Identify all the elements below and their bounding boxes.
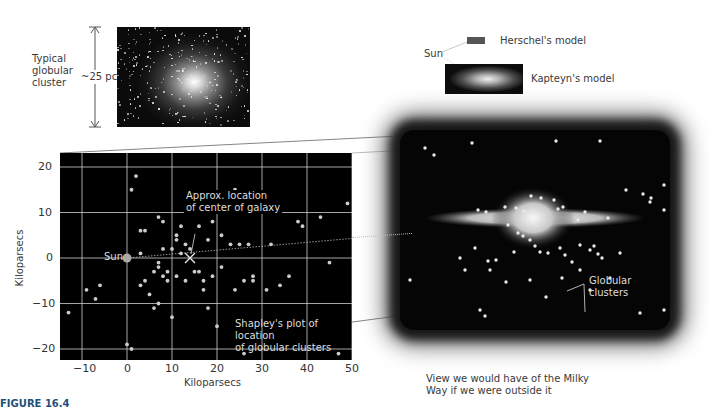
- y-tick-label: 20: [38, 160, 52, 173]
- globular-cluster-point: [233, 288, 237, 292]
- globular-cluster-point: [278, 283, 282, 287]
- globular-cluster-point: [346, 202, 350, 206]
- globular-cluster-point: [251, 274, 255, 278]
- globular-cluster-point: [157, 265, 161, 269]
- globular-cluster-point: [175, 274, 179, 278]
- globular-cluster-point: [161, 247, 165, 251]
- center-label-line: of center of galaxy: [186, 202, 280, 214]
- globular-cluster-point: [67, 311, 71, 315]
- x-tick-label: −10: [73, 362, 96, 375]
- globular-cluster-point: [197, 224, 201, 228]
- globular-cluster-point: [211, 274, 215, 278]
- x-tick-label: 20: [210, 362, 224, 375]
- globular-cluster-point: [206, 238, 210, 242]
- globular-cluster-point: [197, 270, 201, 274]
- globular-cluster-point: [251, 279, 255, 283]
- plot-caption-line: Shapley's plot of location: [235, 318, 352, 342]
- globular-cluster-point: [157, 302, 161, 306]
- globular-cluster-point: [184, 242, 188, 246]
- x-axis-label: Kiloparsecs: [184, 377, 241, 389]
- globular-cluster-point: [188, 247, 192, 251]
- plot-caption: Shapley's plot of location of globular c…: [235, 318, 352, 354]
- globular-cluster-point: [247, 242, 251, 246]
- figure-label: FIGURE 16.4: [0, 398, 70, 409]
- globular-cluster-point: [184, 279, 188, 283]
- globular-cluster-point: [287, 274, 291, 278]
- globular-cluster-point: [139, 252, 143, 256]
- globular-cluster-point: [301, 224, 305, 228]
- globular-cluster-point: [139, 229, 143, 233]
- globular-cluster-point: [125, 343, 129, 347]
- plot-caption-line: of globular clusters: [235, 342, 352, 354]
- globular-cluster-point: [202, 288, 206, 292]
- x-tick-label: 30: [255, 362, 269, 375]
- globular-cluster-point: [296, 220, 300, 224]
- globular-cluster-point: [98, 283, 102, 287]
- globular-cluster-point: [229, 242, 233, 246]
- globular-cluster-point: [143, 229, 147, 233]
- globular-cluster-point: [242, 279, 246, 283]
- globular-cluster-point: [215, 324, 219, 328]
- globular-cluster-point: [152, 270, 156, 274]
- globular-pointer-lines: [400, 130, 670, 330]
- globular-cluster-point: [220, 265, 224, 269]
- view-caption-line: Way if we were outside it: [426, 385, 589, 397]
- galaxy-center-label: Approx. location of center of galaxy: [184, 190, 282, 214]
- y-tick-label: 0: [46, 251, 53, 264]
- globular-cluster-point: [161, 274, 165, 278]
- x-tick-label: 10: [165, 362, 179, 375]
- globular-cluster-point: [319, 215, 323, 219]
- globular-cluster-point: [238, 242, 242, 246]
- milky-way-side-view: Globular clusters: [400, 130, 670, 330]
- shapley-plot: Sun Approx. location of center of galaxy…: [60, 153, 352, 360]
- globular-cluster-point: [211, 220, 215, 224]
- globular-cluster-point: [94, 297, 98, 301]
- globular-cluster-point: [143, 279, 147, 283]
- globular-cluster-point: [85, 288, 89, 292]
- globular-cluster-point: [166, 279, 170, 283]
- globular-cluster-point: [170, 247, 174, 251]
- globular-cluster-point: [179, 224, 183, 228]
- globular-cluster-point: [130, 347, 134, 351]
- x-tick-label: 0: [124, 362, 131, 375]
- center-label-line: Approx. location: [186, 190, 280, 202]
- globular-cluster-point: [175, 238, 179, 242]
- globular-cluster-point: [166, 270, 170, 274]
- globular-cluster-point: [157, 261, 161, 265]
- globular-cluster-point: [134, 174, 138, 178]
- globular-cluster-point: [152, 306, 156, 310]
- globular-cluster-point: [175, 233, 179, 237]
- x-tick-label: 50: [345, 362, 359, 375]
- globular-cluster-point: [170, 315, 174, 319]
- globular-cluster-point: [328, 261, 332, 265]
- plot-sun-label: Sun: [104, 251, 123, 263]
- sun-point: [123, 254, 132, 263]
- view-caption: View we would have of the Milky Way if w…: [426, 373, 589, 397]
- globular-cluster-point: [148, 293, 152, 297]
- globular-cluster-point: [193, 270, 197, 274]
- y-axis-label: Kiloparsecs: [14, 230, 26, 287]
- view-caption-line: View we would have of the Milky: [426, 373, 589, 385]
- globular-cluster-point: [130, 188, 134, 192]
- globular-cluster-point: [265, 288, 269, 292]
- globular-cluster-point: [206, 306, 210, 310]
- globular-cluster-point: [179, 252, 183, 256]
- y-tick-label: −20: [32, 342, 55, 355]
- x-tick-label: 40: [300, 362, 314, 375]
- y-tick-label: 10: [38, 206, 52, 219]
- globular-cluster-point: [157, 215, 161, 219]
- globular-clusters-label: Globular clusters: [589, 275, 670, 299]
- globular-cluster-point: [161, 220, 165, 224]
- y-tick-label: −10: [32, 297, 55, 310]
- globular-cluster-point: [139, 283, 143, 287]
- globular-cluster-point: [202, 279, 206, 283]
- globular-cluster-point: [269, 242, 273, 246]
- globular-cluster-point: [220, 233, 224, 237]
